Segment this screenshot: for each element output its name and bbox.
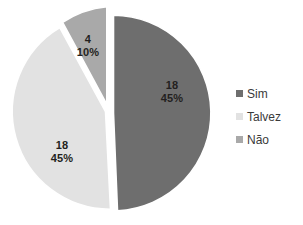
legend-label-talvez: Talvez [247,110,281,124]
data-label-sim-percent: 45% [143,92,201,105]
data-label-sim-value: 18 [143,79,201,92]
legend-item-talvez[interactable]: Talvez [236,105,302,128]
data-label-talvez-value: 18 [33,139,91,152]
data-label-talvez: 18 45% [33,139,91,165]
data-label-nao-percent: 10% [60,46,116,59]
legend-swatch-icon [236,113,243,120]
legend-item-nao[interactable]: Não [236,128,302,151]
data-label-nao: 4 10% [60,33,116,59]
data-label-talvez-percent: 45% [33,152,91,165]
legend-swatch-icon [236,136,243,143]
pie-chart: 18 45% 18 45% 4 10% Sim Talvez Não [0,0,303,225]
data-label-sim: 18 45% [143,79,201,105]
pie-plot-area: 18 45% 18 45% 4 10% [0,0,225,225]
chart-legend: Sim Talvez Não [236,82,302,151]
legend-swatch-icon [236,90,243,97]
legend-label-sim: Sim [247,87,268,101]
data-label-nao-value: 4 [60,33,116,46]
legend-item-sim[interactable]: Sim [236,82,302,105]
legend-label-nao: Não [247,133,269,147]
pie-slice-sim[interactable] [114,15,211,211]
